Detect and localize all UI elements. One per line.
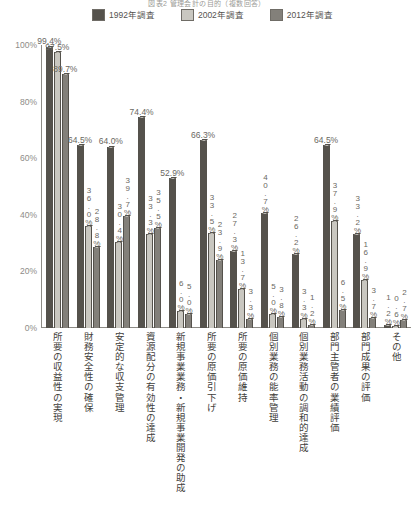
bar-value-label: 1.2%: [384, 293, 391, 325]
bar-value-label: 3.3%: [300, 287, 307, 319]
bar[interactable]: 97.5%: [54, 52, 61, 328]
y-axis-tick-label: 80%: [20, 97, 37, 107]
bar-slot: 37.9%: [331, 45, 338, 328]
bar[interactable]: 64.0%: [107, 147, 114, 328]
bar[interactable]: 6.5%: [339, 310, 346, 328]
bar[interactable]: 39.7%: [123, 216, 130, 328]
x-axis-category: 安定的な収支管理: [104, 332, 135, 517]
bar-value-label: 36.0%: [85, 186, 92, 226]
bar-slot: 6.0%: [177, 45, 184, 328]
legend-swatch-icon: [270, 9, 283, 21]
legend-item: 2012年調査: [270, 9, 333, 21]
x-axis-category-label: 所要の原価維持: [237, 332, 247, 403]
legend-label: 1992年調査: [109, 11, 155, 20]
bar-value-label: 30.4%: [116, 202, 123, 242]
bar-slot: 26.2%: [292, 45, 299, 328]
legend-label: 2012年調査: [287, 11, 333, 20]
bar[interactable]: 28.8%: [93, 247, 100, 329]
bar-group: 99.4%97.5%89.7%: [42, 45, 73, 328]
bar[interactable]: 26.2%: [292, 254, 299, 328]
x-axis-category: 部門成果の評価: [350, 332, 381, 517]
x-axis-category-label: 安定的な収支管理: [114, 332, 124, 413]
bar-slot: 97.5%: [54, 45, 61, 328]
x-axis-category-labels: 所要の収益性の実現財務安全性の確保安定的な収支管理資源配分の有効性の達成新規事業…: [42, 332, 411, 517]
bar[interactable]: 33.3%: [146, 234, 153, 328]
x-axis-category: 所要の収益性の実現: [42, 332, 73, 517]
bar-value-label: 5.0%: [185, 282, 192, 314]
bar-value-label: 3.8%: [277, 285, 284, 317]
bar[interactable]: 6.0%: [177, 311, 184, 328]
bar-value-label: 35.5%: [154, 188, 161, 228]
bar[interactable]: 33.2%: [353, 234, 360, 328]
x-axis-category: 所要の原価引下げ: [196, 332, 227, 517]
y-axis-tick-label: 100%: [15, 40, 37, 50]
legend-label: 2002年調査: [198, 11, 244, 20]
bar[interactable]: 64.5%: [77, 145, 84, 328]
bar-group: 1.2%0.6%2.7%: [380, 45, 411, 328]
bar[interactable]: 3.8%: [277, 317, 284, 328]
bar-slot: 33.3%: [146, 45, 153, 328]
bar[interactable]: 30.4%: [115, 242, 122, 328]
bar[interactable]: 2.7%: [400, 320, 407, 328]
bar-value-label: 5.0%: [269, 282, 276, 314]
bar[interactable]: 1.2%: [384, 325, 391, 328]
x-axis-category: 個別業務の能率管理: [257, 332, 288, 517]
bar-slot: 3.3%: [300, 45, 307, 328]
bar-groups: 99.4%97.5%89.7%64.5%36.0%28.8%64.0%30.4%…: [42, 45, 411, 328]
bar[interactable]: 35.5%: [154, 228, 161, 328]
bar-slot: 13.7%: [238, 45, 245, 328]
bar-value-label: 33.2%: [354, 194, 361, 234]
bar[interactable]: 52.9%: [169, 178, 176, 328]
x-axis-category: 部門主管者の業績評価: [319, 332, 350, 517]
bar-value-label: 3.3%: [247, 287, 254, 319]
bar-slot: 23.9%: [216, 45, 223, 328]
bar[interactable]: 37.9%: [331, 221, 338, 328]
bar[interactable]: 89.7%: [62, 74, 69, 328]
bar-slot: 27.3%: [230, 45, 237, 328]
bar[interactable]: 40.7%: [261, 213, 268, 328]
bar-slot: 5.0%: [185, 45, 192, 328]
y-axis-tick-label: 60%: [20, 153, 37, 163]
bar-value-label: 27.3%: [231, 211, 238, 251]
bar-slot: 64.5%: [77, 45, 84, 328]
bar[interactable]: 64.5%: [323, 145, 330, 328]
bar-value-label: 0.6%: [392, 294, 399, 326]
bar-slot: 89.7%: [62, 45, 69, 328]
legend-item: 1992年調査: [92, 9, 155, 21]
bar[interactable]: 36.0%: [85, 226, 92, 328]
chart-legend: 1992年調査2002年調査2012年調査: [92, 9, 333, 21]
bar-slot: 66.3%: [200, 45, 207, 328]
bar[interactable]: 27.3%: [230, 251, 237, 328]
bar[interactable]: 5.0%: [185, 314, 192, 328]
bar[interactable]: 66.3%: [200, 140, 207, 328]
bar-value-label: 39.7%: [124, 176, 131, 216]
bar[interactable]: 74.4%: [138, 117, 145, 328]
bar[interactable]: 13.7%: [238, 289, 245, 328]
bar[interactable]: 3.7%: [369, 318, 376, 328]
y-axis-tick-label: 20%: [20, 266, 37, 276]
x-axis-category: 所要の原価維持: [227, 332, 258, 517]
x-axis-category-label: 個別業務活動の調和的達成: [298, 332, 308, 453]
x-axis-category-label: 所要の原価引下げ: [206, 332, 216, 413]
bar[interactable]: 5.0%: [269, 314, 276, 328]
bar[interactable]: 23.9%: [216, 260, 223, 328]
x-axis-category: 財務安全性の確保: [73, 332, 104, 517]
bar-slot: 3.3%: [246, 45, 253, 328]
bar-slot: 30.4%: [115, 45, 122, 328]
bar-group: 52.9%6.0%5.0%: [165, 45, 196, 328]
bar-value-label: 28.8%: [93, 207, 100, 247]
bar-group: 27.3%13.7%3.3%: [227, 45, 258, 328]
bar[interactable]: 3.3%: [246, 319, 253, 328]
bar-value-label: 1.2%: [308, 293, 315, 325]
bar-group: 64.0%30.4%39.7%: [104, 45, 135, 328]
bar[interactable]: 99.4%: [46, 47, 53, 328]
bar[interactable]: 33.5%: [208, 233, 215, 328]
bar[interactable]: 16.9%: [361, 280, 368, 328]
bar-slot: 35.5%: [154, 45, 161, 328]
x-axis-category-label: 新規事業業務・新規事業開発の助成: [175, 332, 185, 494]
bar[interactable]: 0.6%: [392, 326, 399, 328]
bar-value-label: 33.5%: [208, 193, 215, 233]
bar[interactable]: 3.3%: [300, 319, 307, 328]
bar[interactable]: 1.2%: [308, 325, 315, 328]
bar-slot: 74.4%: [138, 45, 145, 328]
